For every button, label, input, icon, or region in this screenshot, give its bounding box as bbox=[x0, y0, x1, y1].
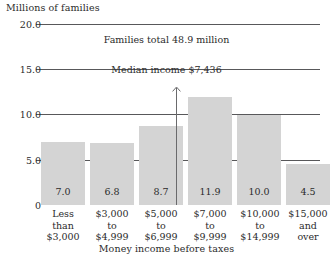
x-category-label-5-line-2: over bbox=[284, 231, 332, 243]
x-category-label-0-line-0: Less bbox=[41, 208, 85, 220]
x-category-label-2-line-1: to bbox=[139, 220, 183, 232]
bar-value-3: 11.9 bbox=[188, 186, 232, 197]
x-axis-title: Money income before taxes bbox=[0, 243, 333, 254]
bar-5: 4.5 bbox=[286, 164, 330, 205]
x-category-label-1: $3,000 to $4,999 bbox=[90, 208, 134, 243]
median-income-label: Median income $7,436 bbox=[0, 64, 333, 75]
x-category-label-4-line-2: $14,999 bbox=[235, 231, 285, 243]
x-category-label-3-line-2: $9,999 bbox=[188, 231, 232, 243]
x-category-label-2-line-2: $6,999 bbox=[139, 231, 183, 243]
bar-1: 6.8 bbox=[90, 143, 134, 205]
x-category-label-3-line-0: $7,000 bbox=[188, 208, 232, 220]
bar-4: 10.0 bbox=[237, 115, 281, 206]
bar-value-0: 7.0 bbox=[41, 186, 85, 197]
x-category-label-3: $7,000 to $9,999 bbox=[188, 208, 232, 243]
x-category-label-2: $5,000 to $6,999 bbox=[139, 208, 183, 243]
median-income-marker bbox=[176, 88, 177, 205]
x-category-label-3-line-1: to bbox=[188, 220, 232, 232]
bar-value-5: 4.5 bbox=[286, 186, 330, 197]
x-category-label-1-line-0: $3,000 bbox=[90, 208, 134, 220]
plot-area: 7.0 6.8 8.7 11.9 10.0 4.5 bbox=[36, 24, 320, 205]
x-category-label-5-line-1: and bbox=[284, 220, 332, 232]
bar-chart: Millions of families Families total 48.9… bbox=[0, 0, 333, 264]
bar-0: 7.0 bbox=[41, 142, 85, 205]
y-axis-title: Millions of families bbox=[6, 2, 100, 13]
x-category-label-4: $10,000 to $14,999 bbox=[235, 208, 285, 243]
x-category-label-0-line-2: $3,000 bbox=[41, 231, 85, 243]
x-category-label-1-line-2: $4,999 bbox=[90, 231, 134, 243]
x-category-label-5: $15,000 and over bbox=[284, 208, 332, 243]
x-category-label-0-line-1: than bbox=[41, 220, 85, 232]
bar-3: 11.9 bbox=[188, 97, 232, 205]
x-category-label-4-line-1: to bbox=[235, 220, 285, 232]
bar-value-1: 6.8 bbox=[90, 186, 134, 197]
x-category-label-5-line-0: $15,000 bbox=[284, 208, 332, 220]
x-category-label-0: Less than $3,000 bbox=[41, 208, 85, 243]
bar-value-4: 10.0 bbox=[237, 186, 281, 197]
x-category-label-2-line-0: $5,000 bbox=[139, 208, 183, 220]
x-category-label-4-line-0: $10,000 bbox=[235, 208, 285, 220]
x-category-label-1-line-1: to bbox=[90, 220, 134, 232]
